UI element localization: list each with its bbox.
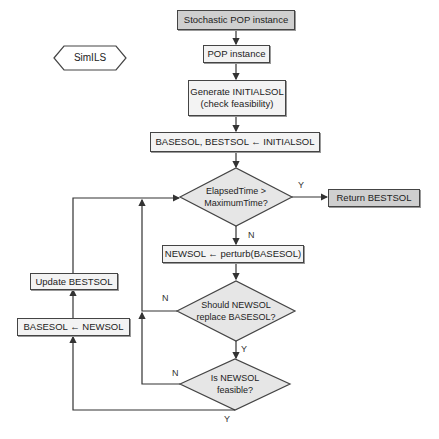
time-check-line1: ElapsedTime > (206, 185, 266, 197)
update-bestsol-node: Update BESTSOL (30, 273, 118, 290)
edge-label-time-no: N (248, 230, 255, 240)
replace-check-text: Should NEWSOL replace BASESOL? (191, 297, 281, 325)
init-assign-label: BASESOL, BESTSOL ← INITIALSOL (155, 136, 314, 148)
perturb-node: NEWSOL ← perturb(BASESOL) (162, 245, 304, 263)
update-bestsol-label: Update BESTSOL (35, 276, 112, 288)
pop-instance-label: POP instance (208, 48, 266, 60)
feasible-check-text: Is NEWSOL feasible? (200, 371, 270, 397)
base-assign-node: BASESOL ← NEWSOL (17, 318, 130, 336)
replace-check-line2: replace BASESOL? (196, 311, 275, 323)
time-check-text: ElapsedTime > MaximumTime? (196, 183, 276, 211)
perturb-label: NEWSOL ← perturb(BASESOL) (165, 248, 301, 260)
edge-label-replace-no: N (162, 293, 169, 303)
generate-initialsol-node: Generate INITIALSOL (check feasibility) (188, 80, 286, 116)
base-assign-label: BASESOL ← NEWSOL (24, 321, 124, 333)
edge-label-feasible-yes: Y (224, 414, 230, 424)
edge-label-replace-yes: Y (241, 344, 247, 354)
stochastic-pop-label: Stochastic POP instance (184, 14, 288, 26)
feasible-check-line2: feasible? (217, 384, 253, 396)
init-assign-node: BASESOL, BESTSOL ← INITIALSOL (150, 132, 320, 152)
generate-line2: (check feasibility) (201, 98, 274, 110)
replace-check-line1: Should NEWSOL (201, 299, 271, 311)
stochastic-pop-node: Stochastic POP instance (177, 10, 295, 30)
return-bestsol-label: Return BESTSOL (337, 192, 412, 204)
edge-label-time-yes: Y (298, 180, 304, 190)
pop-instance-node: POP instance (203, 45, 270, 63)
feasible-check-line1: Is NEWSOL (211, 372, 260, 384)
edge-label-feasible-no: N (172, 368, 179, 378)
return-bestsol-node: Return BESTSOL (328, 189, 420, 207)
generate-line1: Generate INITIALSOL (190, 86, 283, 98)
simils-label: SimILS (54, 46, 126, 70)
time-check-line2: MaximumTime? (204, 197, 268, 209)
